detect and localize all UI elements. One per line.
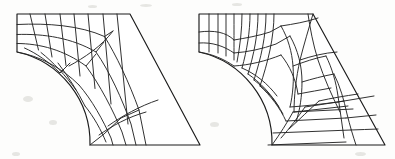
mesh-right-panel xyxy=(182,0,395,159)
figure-root xyxy=(0,0,395,159)
